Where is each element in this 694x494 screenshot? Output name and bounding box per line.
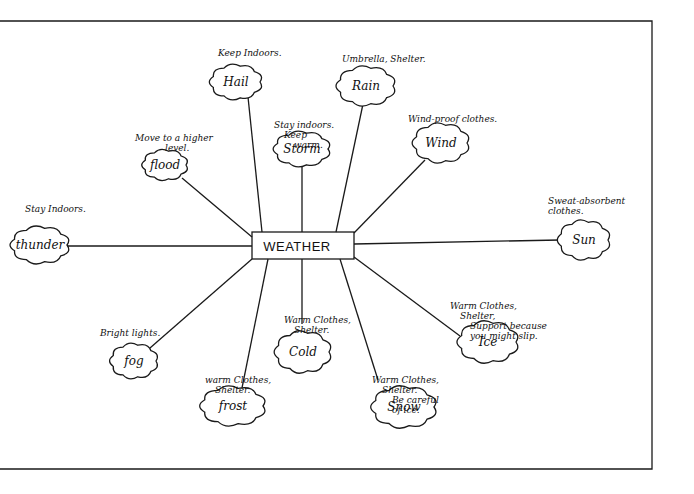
node-note-flood: Move to a higherlevel. [134,133,214,153]
connector-rain [336,104,363,232]
node-fog: fogBright lights. [99,328,160,379]
node-label-sun: Sun [572,233,596,247]
node-ice: IceWarm Clothes,Shelter,Support becausey… [450,301,547,363]
node-wind: WindWind-proof clothes. [408,114,497,163]
node-note-hail: Keep Indoors. [217,48,282,58]
node-label-rain: Rain [351,79,380,93]
node-label-wind: Wind [425,136,457,150]
connector-flood [182,178,252,237]
node-note-fog: Bright lights. [99,328,160,338]
node-note-rain: Umbrella, Shelter. [342,54,426,64]
node-storm: StormStay indoors.Keepwarm. [273,120,334,167]
connector-frost [242,259,268,388]
node-label-frost: frost [218,399,248,413]
node-flood: floodMove to a higherlevel. [134,133,214,181]
node-label-flood: flood [149,158,180,172]
node-label-fog: fog [123,354,144,368]
connector-hail [248,97,262,232]
node-sun: SunSweat-absorbentclothes. [548,196,626,260]
node-note-frost: warm Clothes,Shelter. [205,375,271,395]
node-label-cold: Cold [289,345,317,359]
node-note-thunder: Stay Indoors. [25,204,86,214]
node-snow: SnowWarm Clothes,Shelter.Be carefulof ic… [371,375,439,428]
node-frost: frostwarm Clothes,Shelter. [200,375,272,426]
node-note-cold: Warm Clothes,Shelter. [284,315,351,335]
node-hail: HailKeep Indoors. [209,48,281,100]
node-cold: ColdWarm Clothes,Shelter. [274,315,351,373]
connector-ice [354,257,460,336]
node-label-hail: Hail [222,75,248,89]
node-rain: RainUmbrella, Shelter. [336,54,426,106]
connector-wind [354,160,425,233]
node-label-thunder: thunder [16,238,66,252]
center-title: WEATHER [263,239,331,254]
center-node: WEATHER [252,232,354,259]
node-note-wind: Wind-proof clothes. [408,114,497,124]
node-note-sun: Sweat-absorbentclothes. [548,196,626,216]
connector-sun [354,240,560,244]
connector-fog [150,259,252,348]
weather-mind-map: WEATHER HailKeep Indoors.RainUmbrella, S… [0,0,694,494]
node-thunder: thunderStay Indoors. [10,204,86,264]
